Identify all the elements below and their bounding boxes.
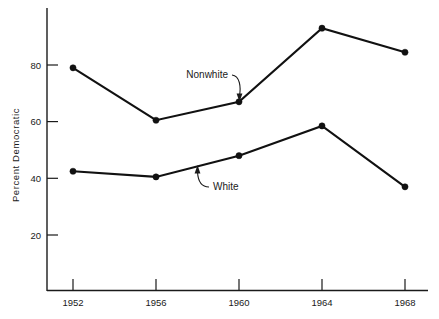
data-point (402, 49, 408, 55)
data-point (153, 174, 159, 180)
data-point (70, 65, 76, 71)
data-point (319, 123, 325, 129)
data-point (153, 117, 159, 123)
nonwhite-leader-line (232, 75, 240, 96)
series-label-white: White (213, 181, 239, 192)
data-point (402, 184, 408, 190)
data-point (319, 25, 325, 31)
data-point (236, 153, 242, 159)
y-tick-label-60: 60 (30, 116, 41, 127)
y-tick-label-20: 20 (30, 230, 41, 241)
series-line-nonwhite (73, 28, 405, 120)
x-tick-label-1956: 1956 (145, 297, 166, 308)
white-leader-line (198, 172, 210, 187)
series-points-white (70, 123, 408, 190)
y-tick-label-40: 40 (30, 173, 41, 184)
series-points-nonwhite (70, 25, 408, 123)
series-label-nonwhite: Nonwhite (186, 69, 228, 80)
x-tick-label-1952: 1952 (62, 297, 83, 308)
x-tick-label-1968: 1968 (394, 297, 415, 308)
y-axis-title: Percent Democratic (10, 108, 21, 202)
line-chart-svg: 80 60 40 20 1952 1956 1960 1964 1968 Per… (0, 0, 439, 319)
x-tick-label-1960: 1960 (228, 297, 249, 308)
y-tick-label-80: 80 (30, 60, 41, 71)
x-tick-label-1964: 1964 (311, 297, 332, 308)
chart-container: 80 60 40 20 1952 1956 1960 1964 1968 Per… (0, 0, 439, 319)
data-point (70, 168, 76, 174)
